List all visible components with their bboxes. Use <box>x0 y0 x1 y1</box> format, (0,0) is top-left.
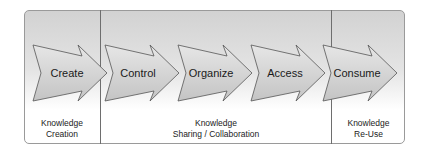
step-label: Consume <box>333 67 380 79</box>
phase-reuse: Knowledge Re-Use <box>332 118 405 140</box>
step-label: Access <box>267 67 303 79</box>
phase-sharing: Knowledge Sharing / Collaboration <box>101 118 331 140</box>
step-label: Organize <box>189 67 234 79</box>
step-label: Control <box>120 67 155 79</box>
phase-line: Creation <box>24 129 100 140</box>
phase-creation: Knowledge Creation <box>24 118 100 140</box>
phase-line: Re-Use <box>332 129 405 140</box>
phase-line: Knowledge <box>332 118 405 129</box>
step-label: Create <box>50 67 83 79</box>
phase-line: Knowledge <box>24 118 100 129</box>
phase-line: Sharing / Collaboration <box>101 129 331 140</box>
phase-line: Knowledge <box>101 118 331 129</box>
